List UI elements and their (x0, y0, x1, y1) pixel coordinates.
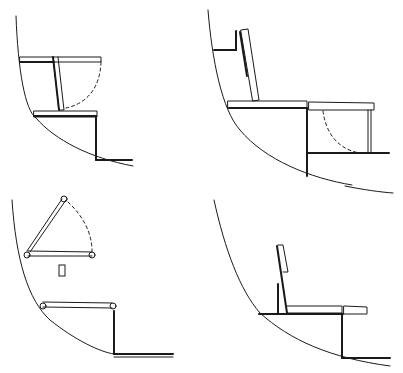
small-block (59, 265, 65, 276)
panel-top-right (208, 10, 389, 185)
swing-arc (68, 202, 92, 251)
hinge-left (24, 252, 30, 258)
diagram-canvas (0, 0, 403, 373)
hull-curve (214, 200, 390, 366)
hull-curve (208, 10, 352, 185)
backrest (241, 29, 259, 101)
hull-curve (16, 16, 133, 166)
wall-bracket (214, 31, 236, 50)
arm-diagonal (27, 199, 66, 252)
panel-top-left (16, 16, 133, 166)
panel-bottom-left (12, 196, 173, 357)
seat (228, 101, 307, 108)
seat-extension (309, 102, 374, 110)
hinge-lower-left (40, 303, 46, 309)
seat (287, 306, 342, 313)
hull-curve (12, 200, 114, 354)
bar-upper (28, 251, 92, 256)
hinge-right (89, 252, 95, 258)
hinge-lower-right (110, 303, 116, 309)
swing-arc (66, 62, 101, 108)
panel-bottom-right (214, 186, 393, 366)
seat-extension (344, 306, 367, 314)
hull-arc-top (345, 186, 393, 193)
bar-lower (43, 302, 112, 308)
swing-arc (323, 111, 360, 153)
